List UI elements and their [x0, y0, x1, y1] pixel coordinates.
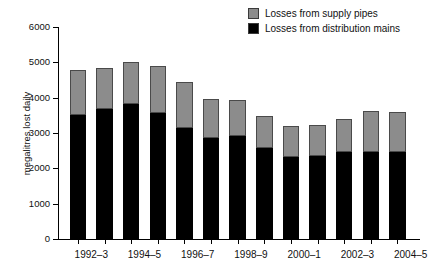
bar-segment-distribution-mains	[203, 138, 220, 239]
x-tick-1993–4	[105, 240, 106, 244]
bar-segment-distribution-mains	[150, 113, 167, 239]
x-tick-label-1992–3: 1992–3	[75, 249, 108, 260]
chart-legend: Losses from supply pipes Losses from dis…	[248, 6, 438, 36]
bar-1995–6	[150, 66, 167, 239]
bar-segment-supply-pipes	[150, 66, 167, 113]
y-tick-label-5000: 5000	[12, 57, 50, 66]
bar-segment-supply-pipes	[176, 82, 193, 128]
bar-segment-supply-pipes	[203, 99, 220, 138]
bar-segment-supply-pipes	[256, 116, 273, 148]
bar-segment-distribution-mains	[363, 152, 380, 239]
x-tick-label-1996–7: 1996–7	[181, 249, 214, 260]
x-tick-label-1998–9: 1998–9	[234, 249, 267, 260]
y-tick-label-2000: 2000	[12, 163, 50, 172]
bar-segment-supply-pipes	[336, 119, 353, 152]
y-tick-6000	[53, 27, 58, 28]
bar-2002–3	[336, 119, 353, 239]
legend-swatch-distribution-mains	[248, 23, 259, 34]
bar-1999–0	[256, 116, 273, 239]
bar-1998–9	[229, 100, 246, 239]
legend-item-supply-pipes: Losses from supply pipes	[248, 6, 438, 20]
bar-segment-distribution-mains	[96, 109, 113, 239]
bar-segment-supply-pipes	[70, 70, 87, 115]
y-axis-line	[58, 27, 59, 240]
x-tick-1994–5	[131, 240, 132, 244]
bar-segment-distribution-mains	[283, 157, 300, 239]
y-tick-0	[53, 239, 58, 240]
x-tick-1997–8	[211, 240, 212, 244]
bar-segment-distribution-mains	[229, 136, 246, 239]
bar-segment-distribution-mains	[309, 156, 326, 239]
bar-1994–5	[123, 62, 140, 239]
legend-swatch-supply-pipes	[248, 8, 259, 19]
stacked-bar-chart: Losses from supply pipes Losses from dis…	[0, 0, 439, 271]
bar-2004–5	[389, 112, 406, 239]
y-tick-2000	[53, 168, 58, 169]
bar-segment-distribution-mains	[336, 152, 353, 239]
bar-segment-distribution-mains	[176, 128, 193, 239]
x-tick-label-2000–1: 2000–1	[288, 249, 321, 260]
legend-label-supply-pipes: Losses from supply pipes	[265, 8, 378, 19]
bar-2000–1	[283, 126, 300, 239]
y-tick-label-0: 0	[12, 234, 50, 243]
x-tick-1995–6	[158, 240, 159, 244]
y-tick-label-3000: 3000	[12, 128, 50, 137]
y-tick-1000	[53, 204, 58, 205]
bar-segment-supply-pipes	[309, 125, 326, 156]
bar-segment-distribution-mains	[123, 104, 140, 239]
bar-segment-supply-pipes	[96, 68, 113, 109]
x-tick-label-2004–5: 2004–5	[394, 249, 427, 260]
x-tick-2000–1	[291, 240, 292, 244]
y-tick-4000	[53, 98, 58, 99]
x-tick-1998–9	[238, 240, 239, 244]
bar-1992–3	[70, 70, 87, 239]
y-tick-label-1000: 1000	[12, 199, 50, 208]
y-tick-5000	[53, 62, 58, 63]
x-tick-1996–7	[184, 240, 185, 244]
legend-item-distribution-mains: Losses from distribution mains	[248, 21, 438, 35]
bar-segment-supply-pipes	[363, 111, 380, 152]
x-tick-2004–5	[397, 240, 398, 244]
x-tick-label-2002–3: 2002–3	[341, 249, 374, 260]
bar-1993–4	[96, 68, 113, 239]
x-tick-label-1994–5: 1994–5	[128, 249, 161, 260]
bar-1996–7	[176, 82, 193, 239]
x-tick-1999–0	[264, 240, 265, 244]
y-tick-label-6000: 6000	[12, 22, 50, 31]
bar-segment-supply-pipes	[229, 100, 246, 136]
bar-2001–2	[309, 125, 326, 239]
bar-segment-supply-pipes	[389, 112, 406, 152]
legend-label-distribution-mains: Losses from distribution mains	[265, 23, 400, 34]
bar-1997–8	[203, 99, 220, 239]
x-tick-2003–4	[371, 240, 372, 244]
bar-segment-supply-pipes	[283, 126, 300, 157]
bar-segment-distribution-mains	[389, 152, 406, 239]
x-axis-line	[58, 239, 420, 240]
y-tick-3000	[53, 133, 58, 134]
x-tick-2001–2	[318, 240, 319, 244]
bar-segment-distribution-mains	[70, 115, 87, 239]
y-tick-label-4000: 4000	[12, 93, 50, 102]
bar-2003–4	[363, 111, 380, 239]
x-tick-2002–3	[344, 240, 345, 244]
x-tick-1992–3	[78, 240, 79, 244]
bar-segment-supply-pipes	[123, 62, 140, 104]
bar-segment-distribution-mains	[256, 148, 273, 239]
